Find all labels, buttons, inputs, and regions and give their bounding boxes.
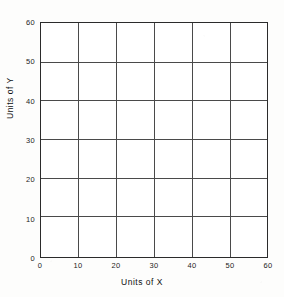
chart-figure: 0 10 20 30 40 50 60 0 10 20 30 40 50 60 … bbox=[0, 0, 284, 297]
x-tick-label: 30 bbox=[150, 261, 159, 270]
plot-area bbox=[40, 22, 268, 258]
gridline-horizontal bbox=[41, 100, 267, 101]
x-axis-title: Units of X bbox=[0, 277, 284, 287]
y-tick-label: 20 bbox=[26, 175, 35, 184]
y-tick-label: 0 bbox=[31, 254, 35, 263]
gridline-horizontal bbox=[41, 178, 267, 179]
y-tick-label: 60 bbox=[26, 18, 35, 27]
gridline-vertical bbox=[116, 23, 117, 257]
y-tick-label: 10 bbox=[26, 214, 35, 223]
gridline-vertical bbox=[78, 23, 79, 257]
gridline-horizontal bbox=[41, 216, 267, 217]
y-axis-title: Units of Y bbox=[5, 103, 15, 119]
gridline-horizontal bbox=[41, 62, 267, 63]
gridline-vertical bbox=[154, 23, 155, 257]
gridline-vertical bbox=[230, 23, 231, 257]
y-tick-label: 40 bbox=[26, 96, 35, 105]
gridline-vertical bbox=[192, 23, 193, 257]
x-tick-label: 40 bbox=[188, 261, 197, 270]
x-tick-label: 60 bbox=[264, 261, 273, 270]
x-tick-label: 50 bbox=[226, 261, 235, 270]
gridline-horizontal bbox=[41, 139, 267, 140]
x-tick-label: 0 bbox=[38, 261, 42, 270]
x-tick-label: 20 bbox=[112, 261, 121, 270]
y-tick-label: 30 bbox=[26, 136, 35, 145]
x-tick-label: 10 bbox=[74, 261, 83, 270]
y-tick-label: 50 bbox=[26, 57, 35, 66]
